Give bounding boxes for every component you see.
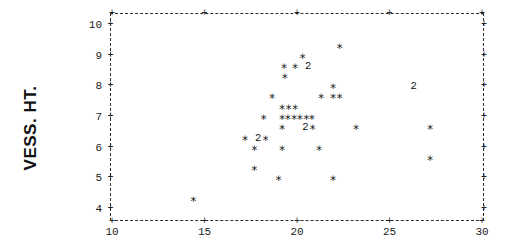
x-tick-mark-bottom: +	[201, 217, 207, 227]
data-point: ∗	[190, 193, 197, 205]
data-point: ∗	[292, 60, 299, 72]
data-point: ∗	[336, 40, 343, 52]
y-tick-label: 8	[95, 81, 102, 92]
y-tick-mark-left: +	[107, 143, 113, 153]
y-tick-mark-right: +	[481, 204, 487, 214]
data-point: ∗	[262, 132, 269, 144]
data-point: ∗	[251, 142, 258, 154]
data-point: ∗	[427, 121, 434, 133]
y-tick-mark-left: +	[107, 51, 113, 61]
data-point: ∗	[275, 172, 282, 184]
x-tick-mark-top: +	[294, 9, 300, 19]
data-point: ∗	[317, 90, 324, 102]
x-tick-mark-top: +	[109, 9, 115, 19]
data-point: ∗	[251, 162, 258, 174]
x-tick-mark-top: +	[386, 9, 392, 19]
y-tick-mark-left: +	[107, 20, 113, 30]
data-point: ∗	[268, 90, 275, 102]
y-tick-label: 4	[95, 203, 102, 214]
x-tick-label: 15	[198, 227, 211, 238]
y-tick-mark-right: +	[481, 112, 487, 122]
x-tick-label: 30	[475, 227, 488, 238]
data-point: ∗	[279, 142, 286, 154]
x-tick-mark-bottom: +	[109, 217, 115, 227]
data-point: ∗	[279, 121, 286, 133]
data-point: ∗	[353, 121, 360, 133]
data-point: ∗	[309, 121, 316, 133]
data-point: ∗	[427, 152, 434, 164]
data-point: ∗	[316, 142, 323, 154]
data-point: ∗	[242, 132, 249, 144]
y-tick-mark-left: +	[107, 81, 113, 91]
y-tick-mark-left: +	[107, 173, 113, 183]
x-tick-mark-bottom: +	[294, 217, 300, 227]
y-tick-label: 6	[95, 142, 102, 153]
x-tick-mark-top: +	[201, 9, 207, 19]
data-point: ∗	[281, 70, 288, 82]
x-tick-label: 10	[105, 227, 118, 238]
data-point-overlap: 2	[305, 61, 311, 72]
y-tick-label: 5	[95, 173, 102, 184]
data-point-overlap: 2	[410, 81, 416, 92]
x-tick-mark-bottom: +	[386, 217, 392, 227]
x-tick-label: 25	[383, 227, 396, 238]
y-tick-mark-left: +	[107, 204, 113, 214]
data-point: ∗	[336, 90, 343, 102]
y-tick-mark-left: +	[107, 112, 113, 122]
y-tick-mark-right: +	[481, 51, 487, 61]
data-point-overlap: 2	[302, 122, 308, 133]
y-tick-mark-right: +	[481, 20, 487, 30]
y-tick-label: 7	[95, 111, 102, 122]
data-point: ∗	[260, 111, 267, 123]
y-tick-label: 10	[89, 20, 102, 31]
scatter-plot-figure: VESS. HT. ++10++15++20++25++30++10++9++8…	[0, 0, 515, 250]
y-tick-mark-right: +	[481, 81, 487, 91]
y-tick-label: 9	[95, 50, 102, 61]
x-tick-mark-bottom: +	[479, 217, 485, 227]
data-point: ∗	[329, 172, 336, 184]
x-tick-label: 20	[290, 227, 303, 238]
x-tick-mark-top: +	[479, 9, 485, 19]
plot-layer: ++10++15++20++25++30++10++9++8++7++6++5+…	[0, 0, 515, 250]
y-tick-mark-right: +	[481, 143, 487, 153]
y-tick-mark-right: +	[481, 173, 487, 183]
